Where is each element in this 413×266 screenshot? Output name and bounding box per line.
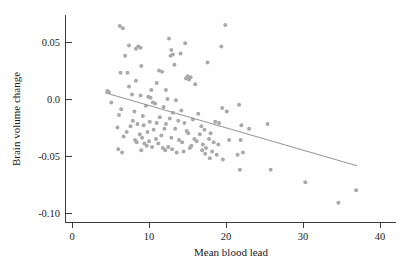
data-point xyxy=(129,124,133,128)
data-point xyxy=(147,139,151,143)
data-point xyxy=(182,121,186,125)
data-point xyxy=(132,110,136,114)
data-point xyxy=(188,146,192,150)
data-point xyxy=(198,132,202,136)
data-point xyxy=(135,122,139,126)
data-point xyxy=(145,130,149,134)
data-point xyxy=(210,149,214,153)
data-point xyxy=(213,120,217,124)
data-point xyxy=(130,92,134,96)
data-point xyxy=(195,139,199,143)
data-point xyxy=(227,138,231,142)
y-tick-label: -0.05 xyxy=(38,151,60,162)
data-point xyxy=(139,148,143,152)
data-point xyxy=(168,116,172,120)
data-point xyxy=(117,113,121,117)
x-tick-label: 0 xyxy=(69,231,74,242)
data-point xyxy=(152,128,156,132)
data-point xyxy=(150,145,154,149)
y-axis-tick-labels: 0.050.0-0.05-0.10 xyxy=(38,37,60,219)
data-point xyxy=(217,121,221,125)
plot-canvas: 0.050.0-0.05-0.10 010203040 Mean blood l… xyxy=(0,0,413,266)
data-point xyxy=(164,122,168,126)
x-axis-title: Mean blood lead xyxy=(194,246,268,258)
x-axis-tick-labels: 010203040 xyxy=(69,231,385,242)
data-point xyxy=(336,201,340,205)
data-point xyxy=(225,110,229,114)
data-point xyxy=(149,88,153,92)
data-point xyxy=(186,131,190,135)
data-point xyxy=(170,147,174,151)
data-point xyxy=(193,82,197,86)
data-point xyxy=(138,132,142,136)
data-point xyxy=(115,126,119,130)
data-point xyxy=(116,147,120,151)
data-point xyxy=(158,115,162,119)
data-point xyxy=(149,96,153,100)
data-point xyxy=(169,48,173,52)
data-point xyxy=(169,54,173,58)
data-point xyxy=(131,119,135,123)
data-point xyxy=(221,157,225,161)
data-point xyxy=(120,151,124,155)
data-point xyxy=(241,151,245,155)
data-point xyxy=(135,140,139,144)
data-point xyxy=(139,64,143,68)
data-point xyxy=(167,37,171,41)
data-point xyxy=(155,121,159,125)
data-point xyxy=(223,23,227,27)
data-point xyxy=(199,124,203,128)
data-point xyxy=(175,151,179,155)
data-point xyxy=(208,156,212,160)
regression-line xyxy=(105,93,357,166)
data-point xyxy=(303,180,307,184)
x-tick-label: 20 xyxy=(221,231,232,242)
data-point xyxy=(212,140,216,144)
data-point xyxy=(204,146,208,150)
data-point xyxy=(123,54,127,58)
data-point xyxy=(155,81,159,85)
data-point xyxy=(154,137,158,141)
data-point xyxy=(134,79,138,83)
data-point xyxy=(141,114,145,118)
data-point xyxy=(207,137,211,141)
data-point xyxy=(139,94,143,98)
y-tick-label: 0.0 xyxy=(47,94,60,105)
data-point xyxy=(165,97,169,101)
data-point xyxy=(237,103,241,107)
data-point xyxy=(119,107,123,111)
data-point xyxy=(269,168,273,172)
data-point xyxy=(239,123,243,127)
y-tick-label: 0.05 xyxy=(42,37,60,48)
data-point xyxy=(172,63,176,67)
data-point xyxy=(180,140,184,144)
data-point xyxy=(201,143,205,147)
data-point xyxy=(202,128,206,132)
data-point xyxy=(125,130,129,134)
data-point xyxy=(203,152,207,156)
data-point xyxy=(354,188,358,192)
data-point xyxy=(148,120,152,124)
data-point xyxy=(220,106,224,110)
data-point xyxy=(139,46,143,50)
data-point xyxy=(160,70,164,74)
data-point xyxy=(216,143,220,147)
data-point xyxy=(156,141,160,145)
data-point xyxy=(200,148,204,152)
y-axis-ticks xyxy=(66,42,72,213)
data-point xyxy=(145,144,149,148)
x-tick-label: 40 xyxy=(375,231,386,242)
scatter-plot-figure: 0.050.0-0.05-0.10 010203040 Mean blood l… xyxy=(0,0,413,266)
data-point xyxy=(182,149,186,153)
data-point xyxy=(215,153,219,157)
data-point xyxy=(174,98,178,102)
data-point xyxy=(153,102,157,106)
data-point xyxy=(209,131,213,135)
data-point xyxy=(183,41,187,45)
data-point xyxy=(239,138,243,142)
data-point xyxy=(187,78,191,82)
data-point xyxy=(196,112,200,116)
data-point xyxy=(206,61,210,65)
data-point xyxy=(142,123,146,127)
x-tick-label: 10 xyxy=(144,231,155,242)
